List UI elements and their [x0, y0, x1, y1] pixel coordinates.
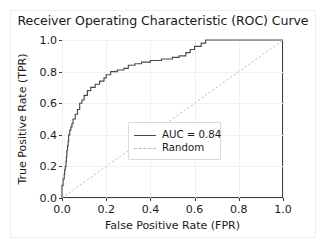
y-tick-mark: [59, 135, 62, 136]
legend-line-dashed-icon: [134, 143, 156, 153]
figure-canvas: Receiver Operating Characteristic (ROC) …: [0, 0, 326, 250]
x-tick-mark: [106, 198, 107, 201]
x-tick-label: 0.4: [142, 203, 160, 216]
x-tick-label: 0.6: [186, 203, 204, 216]
y-tick-mark: [59, 198, 62, 199]
x-tick-mark: [283, 198, 284, 201]
gridline-vertical: [283, 40, 284, 198]
y-axis-label: True Positive Rate (TPR): [16, 53, 29, 184]
page-title: Receiver Operating Characteristic (ROC) …: [10, 13, 316, 28]
x-tick-mark: [62, 198, 63, 201]
legend-label: Random: [162, 142, 204, 153]
y-tick-label: 0.2: [40, 160, 58, 173]
plot-area: 0.00.20.40.60.81.0 0.00.20.40.60.81.0: [62, 40, 283, 198]
roc-curves: [62, 40, 283, 198]
y-tick-label: 1.0: [40, 34, 58, 47]
x-tick-label: 0.2: [97, 203, 115, 216]
random-baseline-line: [62, 40, 283, 198]
y-tick-mark: [59, 103, 62, 104]
x-tick-label: 0.0: [53, 203, 71, 216]
x-tick-label: 1.0: [274, 203, 292, 216]
chart-legend: AUC = 0.84 Random: [128, 122, 221, 160]
y-tick-mark: [59, 40, 62, 41]
x-tick-mark: [150, 198, 151, 201]
legend-item-random[interactable]: Random: [134, 141, 214, 154]
y-tick-label: 0.8: [40, 65, 58, 78]
x-axis-label: False Positive Rate (FPR): [62, 219, 283, 232]
legend-line-solid-icon: [134, 130, 156, 140]
y-tick-label: 0.4: [40, 128, 58, 141]
y-tick-label: 0.0: [40, 192, 58, 205]
x-tick-mark: [239, 198, 240, 201]
x-tick-mark: [195, 198, 196, 201]
y-tick-mark: [59, 166, 62, 167]
gridline-horizontal: [62, 198, 283, 199]
y-tick-mark: [59, 72, 62, 73]
x-tick-label: 0.8: [230, 203, 248, 216]
legend-item-auc[interactable]: AUC = 0.84: [134, 128, 214, 141]
legend-label: AUC = 0.84: [162, 129, 221, 140]
y-tick-label: 0.6: [40, 97, 58, 110]
